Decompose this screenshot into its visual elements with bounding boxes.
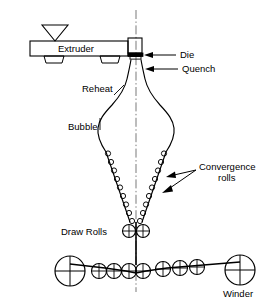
winder-roll <box>225 255 255 285</box>
die-block <box>128 53 143 57</box>
bottom-small-rolls-right <box>156 260 205 277</box>
die-label: Die <box>180 49 194 60</box>
bubble-label: Bubble <box>68 121 98 132</box>
winder-label: Winder <box>223 288 253 299</box>
convergence-rolls-label-line1: Convergence <box>199 161 256 172</box>
diagram-canvas: Extruder Die Quench Reheat Bubble Conver… <box>0 0 270 303</box>
quench-label: Quench <box>182 63 215 74</box>
extruder-label: Extruder <box>58 43 94 54</box>
reheat-label: Reheat <box>82 83 113 94</box>
convergence-rolls-label-line2: rolls <box>218 172 236 183</box>
canvas-background <box>0 0 270 303</box>
bottom-large-roll-left <box>55 256 85 286</box>
blown-film-diagram: Extruder Die Quench Reheat Bubble Conver… <box>0 0 270 303</box>
bottom-center-rolls <box>136 264 151 279</box>
draw-rolls-label: Draw Rolls <box>61 226 107 237</box>
